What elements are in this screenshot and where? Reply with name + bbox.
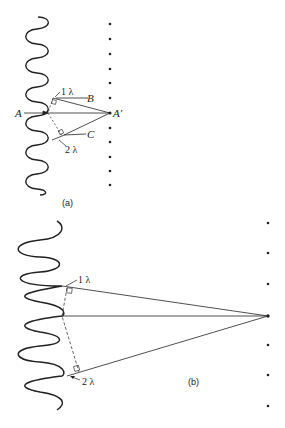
label-B: B [87, 92, 94, 104]
right-angle-mark-upper-a [52, 100, 57, 105]
screen-dots-b [266, 222, 269, 408]
wavefront-b [18, 221, 64, 410]
rays-b [62, 286, 268, 376]
leader-1lambda-a [55, 92, 60, 97]
diffraction-figure: A A′ B C 1 λ 2 λ (a) [0, 0, 285, 428]
label-2-lambda-b: 2 λ [82, 376, 95, 387]
rays-a [24, 98, 110, 140]
label-1-lambda-b: 1 λ [78, 274, 91, 285]
right-angle-mark-lower-b [74, 365, 80, 371]
label-2-lambda-a: 2 λ [65, 144, 78, 155]
right-angle-mark-upper-b [67, 288, 73, 294]
screen-dots-a [108, 23, 111, 187]
caption-b: (b) [188, 377, 199, 387]
label-A: A [14, 107, 22, 119]
label-A-prime: A′ [112, 107, 123, 119]
leader-1lambda-b [66, 280, 77, 286]
panel-a: A A′ B C 1 λ 2 λ (a) [14, 17, 123, 208]
caption-a: (a) [62, 198, 73, 208]
wavefront-a [26, 17, 49, 195]
panel-b: 1 λ 2 λ (b) [18, 221, 269, 410]
dashed-normal-b [62, 288, 79, 372]
label-C: C [87, 128, 95, 140]
label-1-lambda-a: 1 λ [61, 86, 74, 97]
